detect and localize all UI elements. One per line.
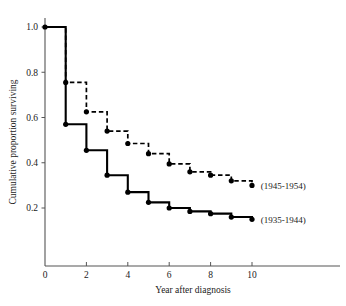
data-point (229, 214, 234, 219)
y-tick-label: 1.0 (26, 22, 38, 32)
data-point (84, 148, 89, 153)
data-point (146, 200, 151, 205)
series-line-1 (45, 27, 254, 185)
data-point (187, 209, 192, 214)
x-axis-ticks (86, 262, 252, 266)
series-line-2 (45, 27, 254, 219)
y-axis-tick-labels: 0.20.40.60.81.0 (26, 22, 38, 213)
series-group (42, 24, 254, 222)
data-point (146, 151, 151, 156)
y-axis-title: Cumulative proportion surviving (8, 79, 18, 204)
data-point (125, 141, 130, 146)
x-tick-label: 6 (167, 270, 172, 280)
data-point (105, 128, 110, 133)
x-tick-label: 2 (84, 270, 89, 280)
x-axis-tick-labels: 0246810 (43, 270, 257, 280)
x-axis-title: Year after diagnosis (155, 285, 231, 295)
y-tick-label: 0.6 (26, 113, 38, 123)
data-point (84, 109, 89, 114)
data-point (208, 211, 213, 216)
data-point (229, 178, 234, 183)
data-point (42, 24, 47, 29)
x-tick-label: 10 (247, 270, 257, 280)
series-label-1: (1945-1954) (261, 181, 306, 191)
series-end-labels: (1945-1954)(1935-1944) (261, 181, 306, 225)
y-tick-label: 0.4 (26, 158, 38, 168)
survival-chart: 0.20.40.60.81.0 0246810 Year after diagn… (0, 0, 346, 306)
data-point (249, 217, 254, 222)
x-tick-label: 8 (208, 270, 213, 280)
data-point (105, 173, 110, 178)
y-tick-label: 0.8 (26, 68, 38, 78)
series-label-2: (1935-1944) (261, 215, 306, 225)
data-point (167, 161, 172, 166)
y-tick-label: 0.2 (26, 203, 38, 213)
x-tick-label: 0 (43, 270, 48, 280)
data-point (167, 205, 172, 210)
data-point (187, 169, 192, 174)
data-point (125, 190, 130, 195)
data-point (208, 173, 213, 178)
x-tick-label: 4 (125, 270, 130, 280)
data-point (63, 122, 68, 127)
data-point (249, 183, 254, 188)
chart-canvas: 0.20.40.60.81.0 0246810 Year after diagn… (0, 0, 346, 306)
